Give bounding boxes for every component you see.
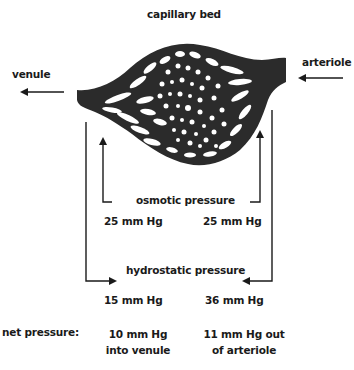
hydrostatic-pressure-label: hydrostatic pressure — [126, 264, 245, 276]
diagram-title: capillary bed — [147, 8, 221, 20]
osmotic-pressure-label: osmotic pressure — [136, 194, 235, 206]
osmotic-arteriole-value: 25 mm Hg — [203, 215, 262, 227]
osmotic-arrow-venule — [103, 139, 112, 202]
net-arteriole-line2: of arteriole — [203, 342, 285, 358]
net-venule-line1: 10 mm Hg — [100, 326, 176, 342]
hydrostatic-venule-value: 15 mm Hg — [104, 294, 163, 306]
osmotic-arrow-arteriole — [250, 132, 260, 202]
net-pressure-label: net pressure: — [2, 326, 79, 338]
diagram-canvas — [0, 0, 354, 370]
hydrostatic-arteriole-value: 36 mm Hg — [205, 294, 264, 306]
net-venule-value: 10 mm Hg into venule — [100, 326, 176, 358]
venule-label: venule — [12, 68, 50, 80]
osmotic-venule-value: 25 mm Hg — [104, 215, 163, 227]
net-arteriole-value: 11 mm Hg out of arteriole — [203, 326, 285, 358]
net-arteriole-line1: 11 mm Hg out — [203, 326, 285, 342]
arteriole-label: arteriole — [302, 56, 351, 68]
net-venule-line2: into venule — [100, 342, 176, 358]
capillary-bed-shape — [77, 44, 286, 166]
